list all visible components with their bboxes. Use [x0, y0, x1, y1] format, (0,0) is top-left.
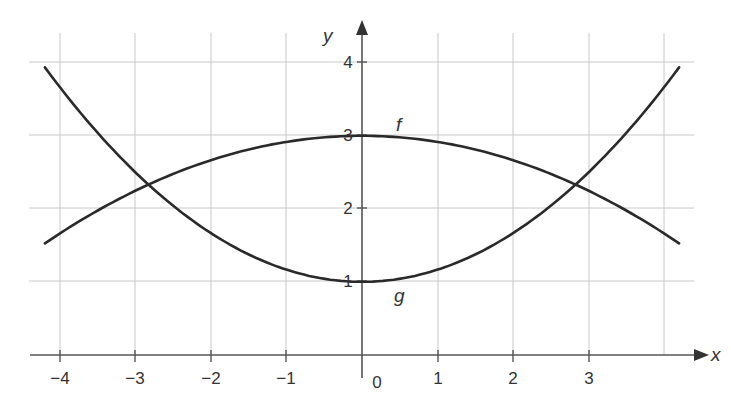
y-tick-label: 2 [343, 199, 352, 218]
x-tick-label: −2 [201, 369, 220, 388]
x-tick-label: 2 [508, 369, 517, 388]
curve-f-label: f [396, 114, 403, 135]
y-axis-label: y [321, 25, 334, 46]
y-tick-label: 4 [343, 53, 352, 72]
x-tick-label-origin: 0 [372, 373, 381, 392]
curve-g-label: g [394, 285, 405, 306]
x-tick-label: 1 [433, 369, 442, 388]
x-tick-label: 3 [584, 369, 593, 388]
y-tick-label: 1 [343, 272, 352, 291]
x-tick-label: −1 [276, 369, 295, 388]
x-ticks [60, 350, 589, 362]
x-tick-label: −4 [50, 369, 69, 388]
function-graph: −4 −3 −2 −1 0 1 2 3 4 3 2 1 x y f g [0, 0, 731, 410]
x-axis-arrow-icon [694, 349, 709, 361]
x-tick-label: −3 [125, 369, 144, 388]
y-tick-label: 3 [343, 126, 352, 145]
x-axis-label: x [710, 344, 722, 365]
y-axis-arrow-icon [356, 20, 368, 35]
